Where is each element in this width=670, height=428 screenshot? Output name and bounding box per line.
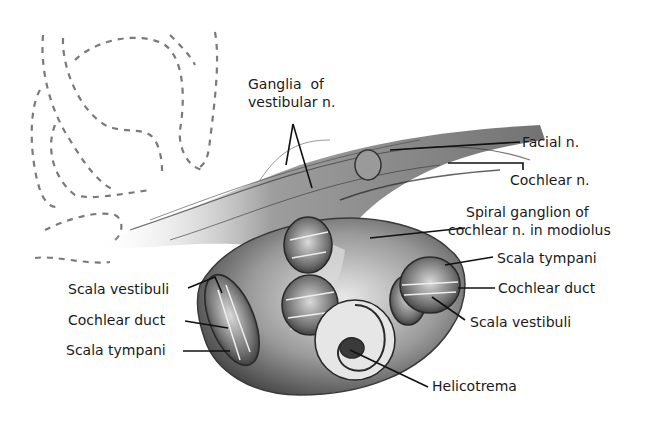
label-scala-vestibuli-right: Scala vestibuli [470,314,571,331]
label-cochlear-duct-left: Cochlear duct [68,312,165,329]
label-scala-tympani-right: Scala tympani [497,250,597,267]
cochlear-turn-apical [284,217,332,273]
label-cochlear-duct-right: Cochlear duct [498,280,595,297]
label-scala-vestibuli-left: Scala vestibuli [68,281,169,298]
label-ganglia-vestibular-line1: Ganglia of [248,76,324,93]
label-spiral-ganglion-line1: Spiral ganglion of [466,204,589,221]
label-ganglia-vestibular-line2: vestibular n. [248,94,335,111]
label-scala-tympani-left: Scala tympani [66,342,166,359]
label-spiral-ganglion-line2: cochlear n. in modiolus [448,222,611,239]
label-facial-n: Facial n. [522,134,579,151]
label-cochlear-n: Cochlear n. [510,172,590,189]
facial-nerve-cross-section [355,150,381,180]
label-helicotrema: Helicotrema [432,378,517,395]
